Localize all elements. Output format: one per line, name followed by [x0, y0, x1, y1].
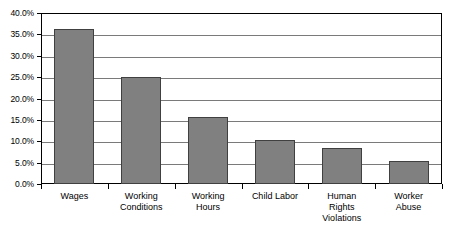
- x-axis-tick-mark: [242, 184, 243, 189]
- x-axis-category-label: HumanRightsViolations: [308, 191, 375, 231]
- x-axis-category-label-line: Child Labor: [242, 191, 307, 202]
- bar[interactable]: [54, 29, 94, 184]
- x-axis-category-label-line: Working: [176, 191, 241, 202]
- bar[interactable]: [322, 148, 362, 184]
- y-axis-tick-label: 25.0%: [0, 73, 34, 82]
- x-axis-category-label-line: Working: [109, 191, 174, 202]
- x-axis-tick-mark: [375, 184, 376, 189]
- x-axis-category-label-line: Wages: [42, 191, 107, 202]
- x-axis-category-label: WorkingConditions: [108, 191, 175, 231]
- x-axis-category-label-line: Conditions: [109, 202, 174, 213]
- x-axis-tick-mark: [41, 184, 42, 189]
- x-axis-tick-mark: [308, 184, 309, 189]
- x-axis-category-label: Wages: [41, 191, 108, 231]
- bar[interactable]: [255, 140, 295, 184]
- x-axis-tick-mark: [108, 184, 109, 189]
- x-axis-category-label-line: Rights: [309, 202, 374, 213]
- x-axis-category-label-line: Human: [309, 191, 374, 202]
- bar-slot: [241, 13, 308, 184]
- bars-layer: [41, 13, 442, 184]
- x-axis-tick-mark: [175, 184, 176, 189]
- x-axis-category-label: WorkingHours: [175, 191, 242, 231]
- y-axis-tick-label: 15.0%: [0, 116, 34, 125]
- x-axis-tick-mark: [442, 184, 443, 189]
- y-axis-tick-label: 0.0%: [0, 180, 34, 189]
- x-axis-category-label-line: Violations: [309, 213, 374, 224]
- y-axis-tick-label: 40.0%: [0, 9, 34, 18]
- bar-slot: [41, 13, 108, 184]
- bar[interactable]: [121, 77, 161, 184]
- x-axis-category-label: Child Labor: [241, 191, 308, 231]
- x-axis-category-label-line: Hours: [176, 202, 241, 213]
- bar[interactable]: [188, 117, 228, 184]
- bar-chart: 40.0%35.0%30.0%25.0%20.0%15.0%10.0%5.0%0…: [0, 0, 451, 231]
- x-axis-tick-marks: [41, 184, 442, 189]
- bar[interactable]: [389, 161, 429, 184]
- x-axis-category-label-line: Abuse: [376, 202, 441, 213]
- x-axis-category-label: WorkerAbuse: [375, 191, 442, 231]
- y-axis-tick-labels: 40.0%35.0%30.0%25.0%20.0%15.0%10.0%5.0%0…: [0, 0, 34, 231]
- y-axis-tick-label: 10.0%: [0, 137, 34, 146]
- y-axis-tick-label: 20.0%: [0, 94, 34, 103]
- bar-slot: [308, 13, 375, 184]
- x-axis-category-label-line: Worker: [376, 191, 441, 202]
- x-axis-category-labels: WagesWorkingConditionsWorkingHoursChild …: [41, 191, 442, 231]
- y-axis-tick-label: 35.0%: [0, 30, 34, 39]
- y-axis-tick-label: 30.0%: [0, 52, 34, 61]
- bar-slot: [375, 13, 442, 184]
- y-axis-tick-label: 5.0%: [0, 158, 34, 167]
- bar-slot: [175, 13, 242, 184]
- bar-slot: [108, 13, 175, 184]
